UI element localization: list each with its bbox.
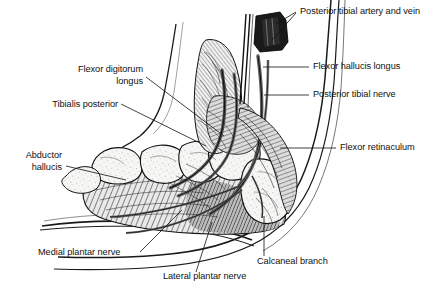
label-medial-plantar-nerve: Medial plantar nerve xyxy=(38,247,120,259)
label-tibialis-posterior: Tibialis posterior xyxy=(8,99,118,111)
leader-tibialis-posterior xyxy=(121,104,206,146)
anterior-leg-contour xyxy=(96,22,183,158)
label-flexor-hallucis-longus: Flexor hallucis longus xyxy=(313,61,400,73)
label-calcaneal-branch: Calcaneal branch xyxy=(257,256,328,268)
label-lateral-plantar-nerve: Lateral plantar nerve xyxy=(163,271,246,283)
label-flexor-retinaculum: Flexor retinaculum xyxy=(340,142,415,154)
label-flexor-digitorum-longus: Flexor digitorum longus xyxy=(23,64,143,87)
anatomy-figure: Posterior tibial artery and vein Flexor … xyxy=(0,0,443,296)
bone-metatarsal-base xyxy=(62,167,101,194)
label-posterior-tibial-nerve: Posterior tibial nerve xyxy=(313,89,396,101)
posterior-tibial-vessels xyxy=(240,14,253,108)
label-posterior-tibial-artery-and-vein: Posterior tibial artery and vein xyxy=(300,6,420,18)
posterior-tibial-vessel-bundle xyxy=(254,12,288,52)
label-abductor-hallucis: Abductor hallucis xyxy=(2,150,62,173)
